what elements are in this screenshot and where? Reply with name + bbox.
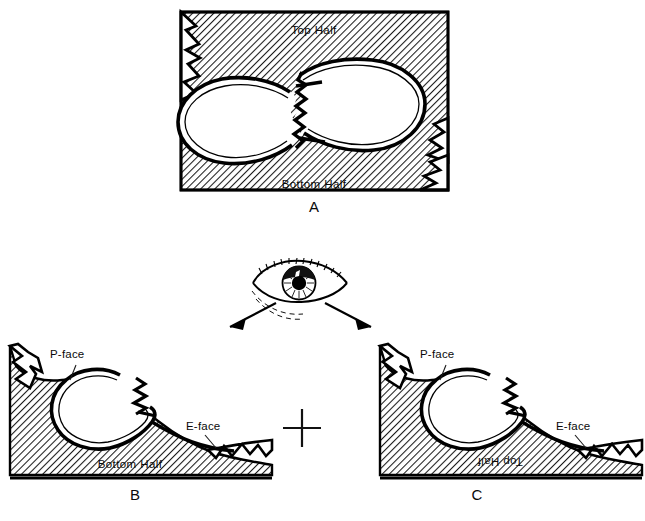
panel-c: P-face E-face Top Half C	[380, 344, 642, 503]
panel-b-p-face-label: P-face	[50, 348, 84, 360]
panel-c-p-face-label: P-face	[420, 348, 454, 360]
panel-c-letter: C	[472, 486, 483, 503]
panel-b-letter: B	[130, 486, 140, 503]
panel-b: P-face E-face Bottom Half B	[10, 344, 272, 503]
panel-a-letter: A	[309, 198, 319, 215]
panel-a: Top Half Bottom Half A	[178, 12, 448, 215]
figure-root: Top Half Bottom Half A	[0, 0, 645, 521]
panel-a-bottom-half-label: Bottom Half	[282, 178, 347, 190]
figure-canvas: Top Half Bottom Half A	[0, 0, 645, 521]
panel-c-e-face-label: E-face	[556, 420, 590, 432]
plus-operator	[283, 409, 321, 447]
eye-pupil	[292, 276, 306, 290]
arrow-down-right-icon	[325, 303, 371, 330]
eye-icon	[252, 258, 347, 319]
panel-c-half-label: Top Half	[477, 456, 523, 468]
arrow-down-left-icon	[230, 303, 276, 330]
panel-b-half-label: Bottom Half	[98, 458, 163, 470]
panel-a-top-half-label: Top Half	[291, 24, 337, 36]
panel-b-e-face-label: E-face	[186, 420, 220, 432]
